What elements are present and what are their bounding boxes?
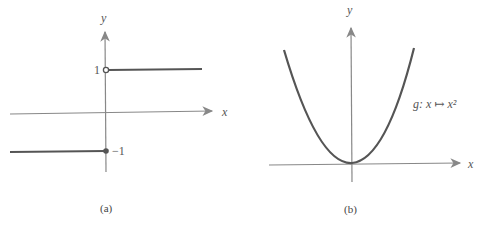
x-axis-b — [269, 163, 460, 165]
y-label-a: y — [100, 11, 107, 25]
closed-dot — [103, 148, 109, 154]
x-label-b: x — [467, 157, 474, 171]
upper-branch — [108, 69, 202, 70]
panel-a: y x 1 −1 (a) — [10, 11, 228, 215]
y-label-b: y — [346, 3, 353, 17]
function-label: g: x ↦ x² — [413, 97, 457, 111]
label-minus-1: −1 — [112, 144, 125, 158]
panel-b: y x g: x ↦ x² (b) — [269, 3, 474, 216]
caption-a: (a) — [100, 202, 113, 215]
figure: y x 1 −1 (a) y x g: x ↦ x² (b) — [0, 0, 485, 226]
caption-b: (b) — [344, 203, 357, 216]
lower-branch — [10, 151, 106, 152]
open-circle — [103, 67, 108, 72]
label-1: 1 — [94, 63, 100, 77]
x-label-a: x — [221, 105, 228, 119]
x-axis-a — [10, 111, 212, 114]
parabola-curve — [284, 48, 414, 163]
y-axis-b — [351, 28, 352, 182]
